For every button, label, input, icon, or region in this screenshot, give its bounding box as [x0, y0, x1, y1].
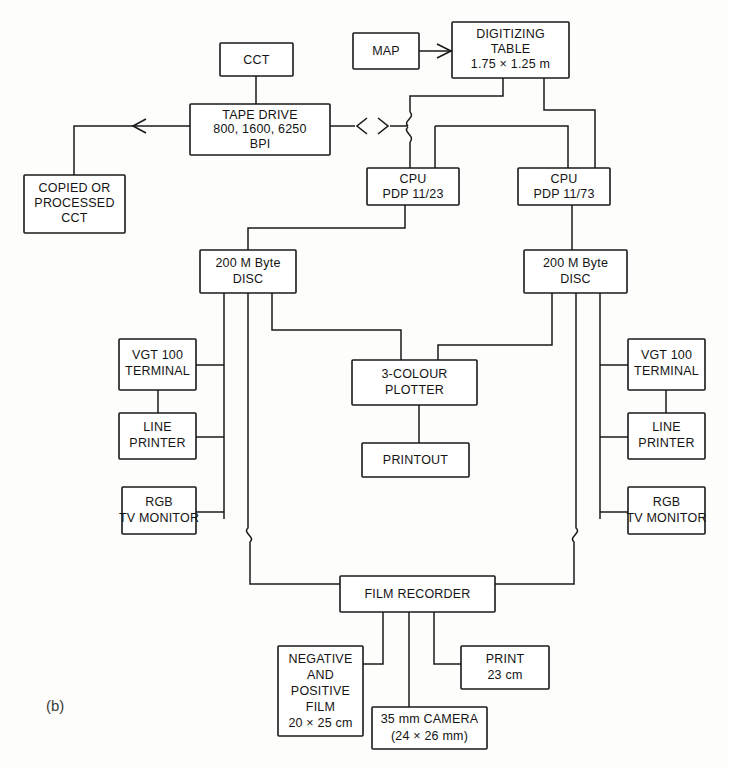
node-cpuleft-line1: CPU	[400, 172, 427, 186]
wire-digitizing-right-leg	[544, 78, 595, 168]
node-printerright-line2: PRINTER	[638, 436, 694, 450]
wire-discleft-to-plotter	[272, 293, 401, 360]
node-rgbright-line2: TV MONITOR	[626, 511, 706, 525]
node-printout[interactable]: PRINTOUT	[362, 443, 469, 477]
node-camera-line2: (24 × 26 mm)	[391, 729, 468, 743]
node-print[interactable]: PRINT 23 cm	[461, 646, 549, 689]
node-rgbleft-line2: TV MONITOR	[119, 511, 199, 525]
node-rgb-right[interactable]: RGB TV MONITOR	[626, 487, 706, 534]
node-disc-left[interactable]: 200 M Byte DISC	[200, 250, 296, 293]
node-vgtleft-line1: VGT 100	[132, 348, 183, 362]
node-camera-line1: 35 mm CAMERA	[381, 712, 479, 726]
node-plotter-line2: PLOTTER	[385, 383, 444, 397]
wire-filmrec-to-film	[363, 612, 383, 664]
node-filmrecorder-label: FILM RECORDER	[364, 587, 470, 601]
node-vgt-right[interactable]: VGT 100 TERMINAL	[628, 339, 705, 390]
node-cpuright-line2: PDP 11/73	[533, 187, 594, 201]
wire-discright-to-plotter	[438, 293, 552, 360]
double-arrow-left-chevron	[357, 118, 367, 134]
figure-canvas: CCT MAP DIGITIZING TABLE 1.75 × 1.25 m T…	[0, 0, 729, 769]
node-tape-line3: BPI	[250, 137, 271, 151]
node-map-label: MAP	[372, 44, 400, 58]
node-printerleft-line2: PRINTER	[129, 436, 185, 450]
node-film-line5: 20 × 25 cm	[288, 716, 352, 730]
node-printout-label: PRINTOUT	[383, 453, 448, 467]
node-cct-label: CCT	[243, 53, 269, 67]
node-film-line2: AND	[307, 668, 334, 682]
node-film-recorder[interactable]: FILM RECORDER	[340, 576, 495, 612]
node-film[interactable]: NEGATIVE AND POSITIVE FILM 20 × 25 cm	[278, 646, 363, 736]
wire-cpuleft-to-discleft	[248, 205, 405, 250]
node-copied-line1: COPIED OR	[39, 181, 111, 195]
wire-digitizing-left-leg	[410, 78, 503, 112]
node-film-line4: FILM	[306, 700, 335, 714]
node-print-line2: 23 cm	[487, 668, 522, 682]
wire-discleft-to-filmbus	[246, 293, 340, 584]
wire-bus-hop	[406, 112, 411, 126]
node-cpuleft-line2: PDP 11/23	[382, 187, 443, 201]
node-digitizing-line3: 1.75 × 1.25 m	[471, 57, 550, 71]
block-diagram: CCT MAP DIGITIZING TABLE 1.75 × 1.25 m T…	[0, 0, 729, 769]
node-vgtright-line2: TERMINAL	[634, 364, 699, 378]
node-film-line1: NEGATIVE	[289, 652, 353, 666]
node-printerright-line1: LINE	[652, 420, 681, 434]
node-printer-right[interactable]: LINE PRINTER	[628, 413, 705, 459]
node-camera[interactable]: 35 mm CAMERA (24 × 26 mm)	[372, 707, 487, 749]
node-disc-right[interactable]: 200 M Byte DISC	[524, 250, 627, 293]
node-print-line1: PRINT	[486, 652, 525, 666]
node-map[interactable]: MAP	[353, 33, 419, 69]
node-discleft-line2: DISC	[233, 272, 264, 286]
node-printerleft-line1: LINE	[143, 420, 172, 434]
node-tape-line1: TAPE DRIVE	[222, 108, 297, 122]
wire-bus-hop-lower	[406, 127, 411, 142]
node-printer-left[interactable]: LINE PRINTER	[119, 413, 196, 459]
wire-filmrec-to-print	[434, 612, 461, 664]
node-plotter-line1: 3-COLOUR	[381, 367, 447, 381]
node-copied-line2: PROCESSED	[34, 196, 114, 210]
node-plotter[interactable]: 3-COLOUR PLOTTER	[352, 360, 477, 405]
node-discright-line2: DISC	[560, 272, 591, 286]
node-vgtright-line1: VGT 100	[641, 348, 692, 362]
node-tape-drive[interactable]: TAPE DRIVE 800, 1600, 6250 BPI	[190, 104, 330, 155]
node-vgtleft-line2: TERMINAL	[125, 364, 190, 378]
node-rgb-left[interactable]: RGB TV MONITOR	[119, 487, 199, 534]
figure-label: (b)	[46, 697, 64, 714]
node-digitizing-line1: DIGITIZING	[476, 27, 545, 41]
node-rgbright-line1: RGB	[653, 495, 681, 509]
node-cpu-left[interactable]: CPU PDP 11/23	[367, 168, 459, 205]
node-digitizing-line2: TABLE	[491, 42, 531, 56]
wire-discright-to-filmbus	[495, 293, 578, 584]
double-arrow-right-chevron	[378, 118, 388, 134]
wire-tape-to-copied	[74, 126, 190, 175]
node-digitizing-table[interactable]: DIGITIZING TABLE 1.75 × 1.25 m	[452, 22, 569, 78]
wire-bus-to-cpu-right	[435, 126, 568, 168]
node-cct[interactable]: CCT	[220, 43, 293, 76]
node-rgbleft-line1: RGB	[145, 495, 173, 509]
node-copied-cct[interactable]: COPIED OR PROCESSED CCT	[24, 175, 125, 233]
node-discleft-line1: 200 M Byte	[215, 256, 280, 270]
node-vgt-left[interactable]: VGT 100 TERMINAL	[119, 339, 196, 390]
node-film-line3: POSITIVE	[291, 684, 350, 698]
node-cpu-right[interactable]: CPU PDP 11/73	[518, 168, 610, 205]
node-cpuright-line1: CPU	[551, 172, 578, 186]
node-discright-line1: 200 M Byte	[543, 256, 608, 270]
node-tape-line2: 800, 1600, 6250	[213, 122, 306, 136]
node-copied-line3: CCT	[61, 211, 87, 225]
